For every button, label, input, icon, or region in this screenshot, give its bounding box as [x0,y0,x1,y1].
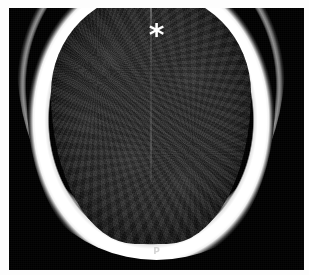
figure-frame: * P [0,0,309,275]
asterisk-marker: * [9,25,304,45]
ct-image-canvas[interactable]: * P [9,8,304,270]
posterior-orientation-marker: P [9,247,304,256]
